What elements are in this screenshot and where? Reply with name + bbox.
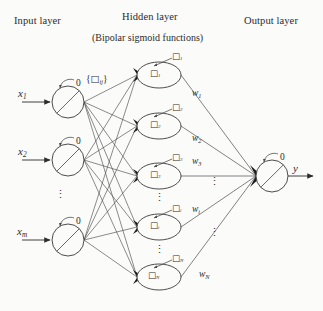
hidden-layer-ellipsis-upper: ⋮ bbox=[153, 196, 165, 199]
hidden-threshold-1: □1 bbox=[172, 52, 183, 62]
header-input-layer: Input layer bbox=[14, 16, 61, 27]
input-threshold-m: 0 bbox=[76, 217, 81, 227]
input-node-m bbox=[22, 217, 84, 256]
weight-label-wN: wN bbox=[199, 270, 210, 280]
input-layer-ellipsis: ⋮ bbox=[54, 193, 66, 196]
network-graphics bbox=[0, 0, 323, 311]
hidden-node-body-i: □i bbox=[150, 221, 159, 231]
input-signal-xm: xm bbox=[17, 226, 27, 239]
input-to-hidden-edges bbox=[84, 75, 137, 277]
hidden-node-body-3: □3 bbox=[150, 170, 161, 180]
output-threshold: 0 bbox=[280, 153, 285, 163]
hidden-threshold-N: □N bbox=[172, 254, 183, 264]
neural-network-figure: Input layer Hidden layer (Bipolar sigmoi… bbox=[0, 0, 323, 311]
input-signal-x2: x2 bbox=[18, 146, 27, 159]
input-node-2 bbox=[22, 137, 84, 176]
hidden-threshold-i: □i bbox=[172, 204, 181, 214]
header-hidden-layer-note: (Bipolar sigmoid functions) bbox=[92, 33, 203, 43]
output-signal-y: y bbox=[293, 163, 298, 174]
input-node-1 bbox=[22, 79, 84, 118]
hidden-node-body-1: □1 bbox=[150, 69, 161, 79]
hidden-layer-ellipsis-lower: ⋮ bbox=[153, 248, 165, 251]
weight-set-label-input-hidden: {□ij} bbox=[86, 74, 108, 85]
hidden-node-body-N: □N bbox=[148, 271, 159, 281]
weight-column-ellipsis-upper: ⋮ bbox=[208, 180, 220, 183]
weight-label-wi: wi bbox=[192, 205, 200, 215]
hidden-threshold-2: □2 bbox=[172, 103, 183, 113]
header-output-layer: Output layer bbox=[244, 16, 298, 27]
input-threshold-1: 0 bbox=[76, 79, 81, 89]
hidden-node-body-2: □2 bbox=[150, 120, 161, 130]
input-threshold-2: 0 bbox=[76, 137, 81, 147]
header-hidden-layer: Hidden layer bbox=[122, 12, 178, 23]
input-signal-x1: x1 bbox=[18, 88, 27, 101]
weight-column-ellipsis-lower: ⋮ bbox=[208, 231, 220, 234]
weight-label-w2: w2 bbox=[192, 134, 201, 144]
weight-label-w1: w1 bbox=[192, 89, 201, 99]
hidden-threshold-3: □3 bbox=[172, 153, 183, 163]
weight-label-w3: w3 bbox=[192, 157, 201, 167]
